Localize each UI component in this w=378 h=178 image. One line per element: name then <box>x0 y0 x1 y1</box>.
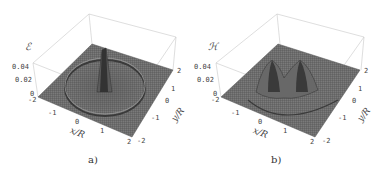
x-tick: -2 <box>28 97 36 104</box>
z-tick: 0.02 <box>197 77 214 84</box>
y-tick: 1 <box>171 86 175 93</box>
y-tick: 0 <box>165 98 169 105</box>
x-tick: 0 <box>258 119 262 126</box>
surface-plot-a <box>0 0 189 178</box>
x-tick: -1 <box>48 110 56 117</box>
y-tick: 0 <box>352 98 356 105</box>
y-tick: 1 <box>358 86 362 93</box>
y-tick: 2 <box>177 68 181 75</box>
x-tick: 1 <box>283 128 287 135</box>
panel-caption: b) <box>271 155 281 165</box>
panel-caption: a) <box>88 155 98 165</box>
z-tick: 0.04 <box>12 64 29 71</box>
z-axis-label: ℰ <box>25 42 31 52</box>
panel-b: ℋ 0.04 0.02 0 -2 -1 0 1 2 x/R 2 1 0 -1 -… <box>188 0 377 178</box>
x-tick: -1 <box>231 110 239 117</box>
y-tick: -2 <box>137 138 145 145</box>
z-tick: 0.02 <box>15 77 32 84</box>
y-tick: -2 <box>322 138 330 145</box>
panel-a: ℰ 0.04 0.02 0 -2 -1 0 1 2 x/R 2 1 0 -1 -… <box>0 0 189 178</box>
x-tick: 1 <box>100 128 104 135</box>
x-tick: 0 <box>75 119 79 126</box>
surface-plot-b <box>188 0 377 178</box>
x-tick: 2 <box>310 139 314 146</box>
z-axis-label: ℋ <box>208 42 218 52</box>
z-tick: 0.04 <box>194 64 211 71</box>
y-tick: -1 <box>151 115 159 122</box>
x-tick: -2 <box>211 97 219 104</box>
x-tick: 2 <box>127 139 131 146</box>
y-tick: -1 <box>338 115 346 122</box>
y-tick: 2 <box>364 68 368 75</box>
